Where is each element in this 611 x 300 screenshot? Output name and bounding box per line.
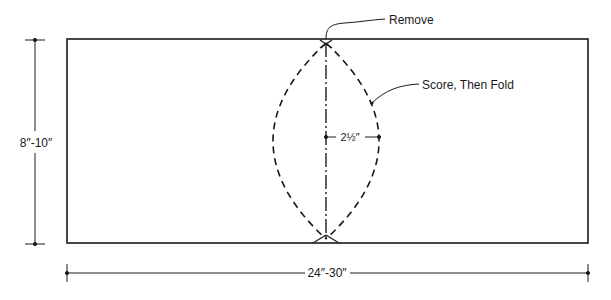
width-label: 24″-30″ xyxy=(307,266,347,280)
score-fold-label: Score, Then Fold xyxy=(422,78,514,92)
score-fold-leader xyxy=(372,84,419,103)
panel-outline xyxy=(67,39,588,243)
half-width-label: 2½″ xyxy=(340,131,359,143)
diagram-canvas: 2½″ Remove Score, Then Fold 8″-10″ 24″-3… xyxy=(0,0,611,300)
score-arc-left xyxy=(273,43,326,239)
remove-leader xyxy=(326,19,385,39)
height-label: 8″-10″ xyxy=(20,136,53,150)
remove-label: Remove xyxy=(389,13,434,27)
